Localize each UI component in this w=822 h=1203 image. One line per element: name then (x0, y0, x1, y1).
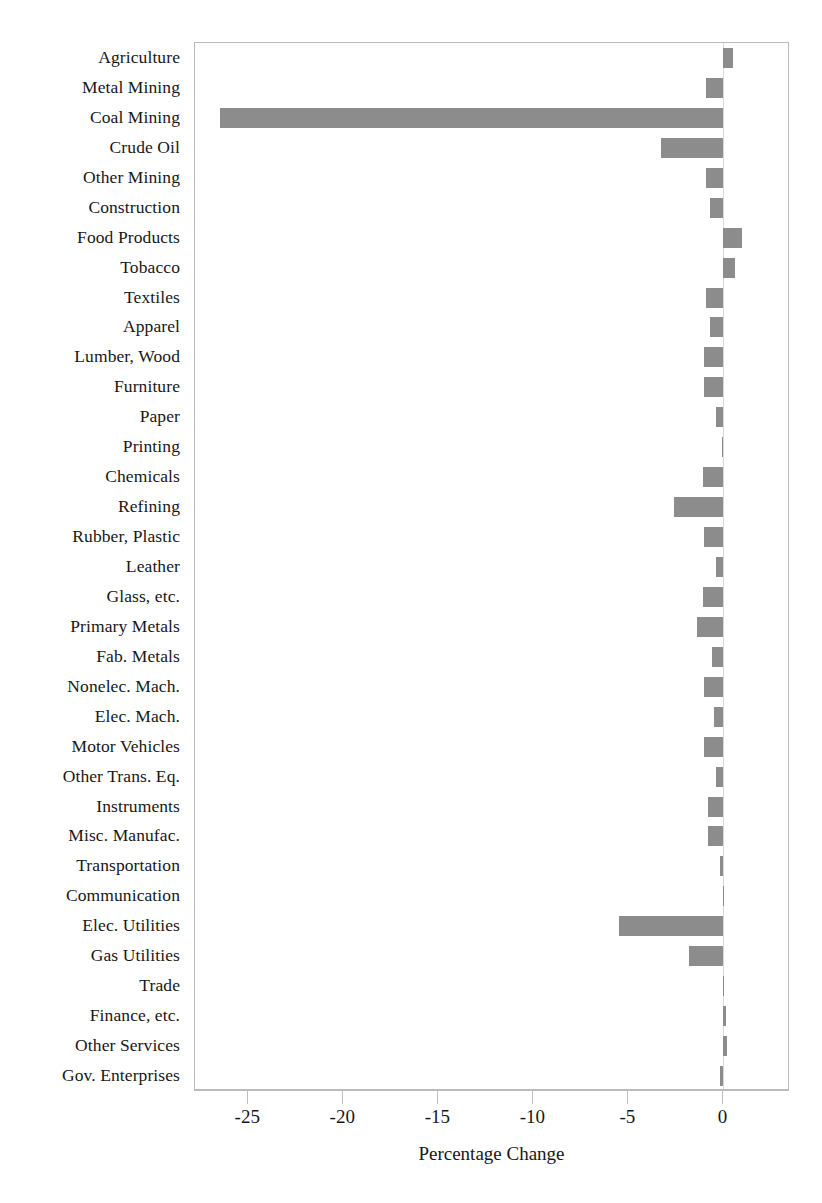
category-label: Agriculture (0, 47, 180, 67)
category-label: Other Trans. Eq. (0, 766, 180, 786)
x-tick (342, 1091, 343, 1104)
category-label: Primary Metals (0, 616, 180, 636)
category-label: Communication (0, 885, 180, 905)
bar (704, 527, 723, 547)
category-label: Paper (0, 406, 180, 426)
bar (704, 737, 723, 757)
bar (704, 347, 723, 367)
x-axis-line (194, 1090, 789, 1091)
category-label: Leather (0, 556, 180, 576)
bar (697, 617, 724, 637)
bar (720, 856, 724, 876)
bar-chart-figure: AgricultureMetal MiningCoal MiningCrude … (0, 0, 822, 1203)
category-label: Lumber, Wood (0, 346, 180, 366)
bar (703, 467, 724, 487)
category-label: Metal Mining (0, 77, 180, 97)
category-label: Transportation (0, 855, 180, 875)
bar (723, 48, 733, 68)
bar (716, 407, 724, 427)
bar (722, 437, 724, 457)
category-label: Rubber, Plastic (0, 526, 180, 546)
category-label: Gov. Enterprises (0, 1065, 180, 1085)
bar (710, 317, 723, 337)
category-label: Trade (0, 975, 180, 995)
x-tick-label: -5 (619, 1106, 635, 1128)
category-label: Printing (0, 436, 180, 456)
bar (723, 1036, 727, 1056)
category-label: Instruments (0, 796, 180, 816)
bar (714, 707, 724, 727)
category-label: Textiles (0, 287, 180, 307)
x-tick (532, 1091, 533, 1104)
bar (712, 647, 723, 667)
plot-area (194, 42, 789, 1090)
bar (706, 78, 723, 98)
bar (723, 228, 742, 248)
bar (710, 198, 723, 218)
category-label: Food Products (0, 227, 180, 247)
category-label: Elec. Utilities (0, 915, 180, 935)
category-label: Crude Oil (0, 137, 180, 157)
category-axis-labels: AgricultureMetal MiningCoal MiningCrude … (0, 42, 180, 1090)
category-label: Gas Utilities (0, 945, 180, 965)
bar (708, 797, 723, 817)
bar (704, 677, 723, 697)
zero-reference-line (723, 43, 724, 1089)
category-label: Tobacco (0, 257, 180, 277)
category-label: Other Mining (0, 167, 180, 187)
bar (720, 1066, 724, 1086)
category-label: Elec. Mach. (0, 706, 180, 726)
x-tick-label: -15 (425, 1106, 450, 1128)
x-tick (722, 1091, 723, 1104)
bar (703, 587, 724, 607)
bar (716, 767, 724, 787)
category-label: Nonelec. Mach. (0, 676, 180, 696)
category-label: Finance, etc. (0, 1005, 180, 1025)
x-tick (627, 1091, 628, 1104)
category-label: Apparel (0, 316, 180, 336)
x-tick-label: -20 (330, 1106, 355, 1128)
category-label: Misc. Manufac. (0, 825, 180, 845)
category-label: Refining (0, 496, 180, 516)
bar (661, 138, 724, 158)
x-tick-label: 0 (718, 1106, 728, 1128)
category-label: Furniture (0, 376, 180, 396)
bar (708, 826, 723, 846)
bar (674, 497, 723, 517)
bar (723, 258, 734, 278)
plot-inner (195, 43, 788, 1089)
x-tick (247, 1091, 248, 1104)
bar (716, 557, 724, 577)
x-tick (437, 1091, 438, 1104)
bar (723, 976, 725, 996)
x-tick-label: -10 (520, 1106, 545, 1128)
category-label: Fab. Metals (0, 646, 180, 666)
bar (704, 377, 723, 397)
bar (220, 108, 724, 128)
category-label: Chemicals (0, 466, 180, 486)
category-label: Other Services (0, 1035, 180, 1055)
bar (723, 1006, 726, 1026)
category-label: Glass, etc. (0, 586, 180, 606)
category-label: Construction (0, 197, 180, 217)
bar (706, 168, 723, 188)
category-label: Motor Vehicles (0, 736, 180, 756)
x-tick-label: -25 (235, 1106, 260, 1128)
bar (723, 886, 725, 906)
bar (706, 288, 723, 308)
bar (619, 916, 724, 936)
x-axis-title: Percentage Change (194, 1143, 789, 1165)
bar (689, 946, 723, 966)
category-label: Coal Mining (0, 107, 180, 127)
